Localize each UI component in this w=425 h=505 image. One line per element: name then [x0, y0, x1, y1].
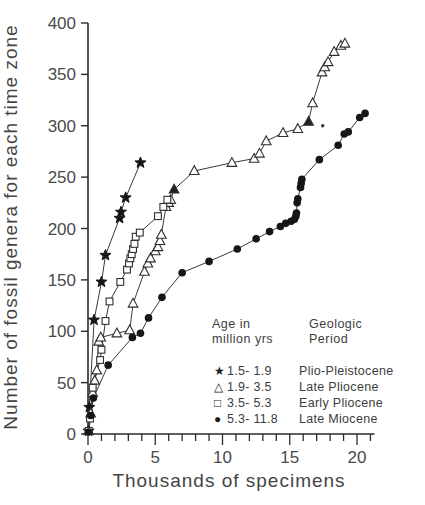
x-tick-label: 0: [83, 448, 92, 467]
data-point-star: [135, 157, 146, 167]
data-point-triangle: [157, 229, 167, 238]
data-point-circle: [334, 141, 342, 149]
legend-age-range: 1.5- 1.9: [227, 364, 299, 378]
legend-age-header-line2: million yrs: [212, 332, 300, 347]
legend-headers: Age in million yrs Geologic Period: [212, 317, 417, 347]
circle-marker-icon: ●: [214, 412, 227, 426]
y-tick-label: 200: [48, 220, 76, 239]
data-point-circle: [87, 412, 95, 420]
legend-age-range: 1.9- 3.5: [227, 380, 299, 394]
data-point-circle: [252, 235, 260, 243]
data-point-circle: [85, 428, 93, 436]
data-point-square: [106, 298, 113, 305]
square-marker-icon: □: [214, 396, 227, 410]
data-point-star: [120, 192, 131, 203]
x-tick-label: 10: [213, 448, 232, 467]
data-point-square: [102, 318, 109, 325]
y-tick-label: 300: [48, 117, 76, 136]
legend-period-label: Early Pliocene: [299, 396, 383, 410]
data-point-triangle: [140, 266, 150, 275]
y-tick-label: 150: [48, 271, 76, 290]
data-point-square: [117, 279, 124, 286]
x-tick-label: 5: [151, 448, 160, 467]
data-point-star: [96, 276, 107, 286]
legend-period-header-line1: Geologic: [309, 317, 362, 332]
data-point-square: [160, 204, 167, 211]
legend-age-range: 3.5- 5.3: [227, 396, 299, 410]
data-point-circle: [137, 330, 145, 338]
y-axis-title: Number of fossil genera for each time zo…: [0, 24, 22, 429]
stray-dot: [321, 124, 324, 127]
data-point-circle: [361, 110, 369, 118]
data-point-triangle: [169, 184, 179, 193]
data-point-square: [131, 241, 138, 248]
data-point-triangle: [308, 98, 318, 107]
y-tick-label: 0: [67, 425, 76, 444]
data-point-circle: [104, 361, 112, 369]
data-point-triangle: [125, 325, 135, 334]
legend-period-label: Late Miocene: [299, 412, 378, 426]
x-tick-label: 15: [280, 448, 299, 467]
data-point-circle: [298, 175, 306, 183]
data-point-circle: [178, 269, 186, 277]
data-point-circle: [90, 394, 98, 402]
y-tick-label: 400: [48, 14, 76, 33]
y-tick-label: 250: [48, 168, 76, 187]
star-marker-icon: ★: [214, 364, 227, 378]
legend-age-header-line1: Age in: [212, 317, 300, 332]
data-point-circle: [205, 258, 213, 266]
x-tick-label: 20: [348, 448, 367, 467]
y-tick-label: 100: [48, 322, 76, 341]
y-tick-label: 350: [48, 65, 76, 84]
data-point-square: [97, 357, 104, 364]
y-tick-label: 50: [57, 374, 76, 393]
data-point-circle: [266, 228, 274, 236]
fossil-genera-chart: 05010015020025030035040005101520 Number …: [0, 0, 425, 505]
chart-canvas: 05010015020025030035040005101520: [0, 0, 425, 505]
legend-age-range: 5.3- 11.8: [227, 412, 299, 426]
legend-rows: ★ 1.5- 1.9 Plio-Pleistocene △ 1.9- 3.5 L…: [212, 363, 417, 427]
data-point-triangle: [293, 124, 303, 133]
data-point-square: [98, 346, 105, 353]
data-point-square: [155, 213, 162, 220]
data-point-circle: [344, 128, 352, 136]
legend-period-header-line2: Period: [309, 332, 362, 347]
series-line-square: [89, 200, 168, 431]
data-point-circle: [293, 209, 301, 217]
data-point-circle: [316, 156, 324, 164]
legend-item-late-miocene: ● 5.3- 11.8 Late Miocene: [212, 411, 417, 427]
legend: Age in million yrs Geologic Period ★ 1.5…: [212, 317, 417, 427]
data-point-circle: [294, 195, 302, 203]
data-point-triangle: [255, 148, 265, 157]
data-point-triangle: [128, 298, 138, 307]
data-point-square: [164, 196, 171, 203]
legend-item-late-pliocene: △ 1.9- 3.5 Late Pliocene: [212, 379, 417, 395]
data-point-circle: [158, 294, 166, 302]
data-point-triangle: [92, 365, 102, 374]
data-point-triangle: [304, 116, 314, 125]
data-point-circle: [233, 245, 241, 253]
legend-age-header: Age in million yrs: [212, 317, 300, 347]
data-point-square: [136, 229, 143, 236]
data-point-circle: [145, 314, 153, 322]
data-point-square: [89, 384, 96, 391]
data-point-triangle: [261, 136, 271, 145]
legend-period-label: Plio-Pleistocene: [299, 364, 393, 378]
triangle-marker-icon: △: [214, 380, 227, 394]
data-point-circle: [129, 334, 137, 342]
legend-period-header: Geologic Period: [300, 317, 362, 347]
legend-period-label: Late Pliocene: [299, 380, 379, 394]
legend-item-early-pliocene: □ 3.5- 5.3 Early Pliocene: [212, 395, 417, 411]
legend-item-plio-pleistocene: ★ 1.5- 1.9 Plio-Pleistocene: [212, 363, 417, 379]
x-axis-title: Thousands of specimens: [112, 470, 345, 492]
